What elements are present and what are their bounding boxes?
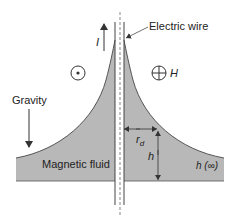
height-far-label: h (∞) <box>196 160 218 171</box>
radius-subscript: d <box>140 139 145 148</box>
current-label: I <box>96 36 99 48</box>
wire-leader-line <box>126 27 148 38</box>
field-label: H <box>170 67 178 79</box>
circle-cross-icon <box>152 66 166 80</box>
wire-label: Electric wire <box>149 20 208 32</box>
magnetic-fluid-diagram: Electric wire I H Gravity Magnetic fluid… <box>0 0 237 220</box>
fluid-label: Magnetic fluid <box>42 158 110 170</box>
gravity-label: Gravity <box>12 94 47 106</box>
height-label: h <box>148 150 154 162</box>
circle-dot-icon <box>71 66 85 80</box>
